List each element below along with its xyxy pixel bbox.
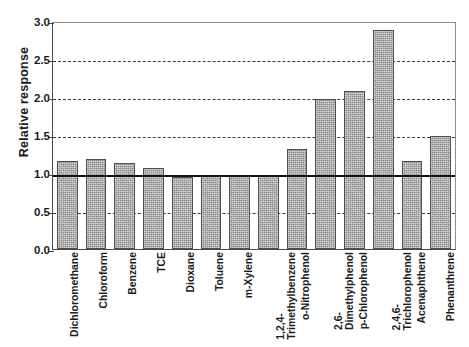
x-tick-label-line: m-Xylene bbox=[244, 252, 255, 298]
x-tick-label: TCE bbox=[157, 252, 168, 273]
x-tick-label: Dioxane bbox=[186, 252, 197, 292]
bar-slot bbox=[426, 23, 455, 249]
bar-slot bbox=[110, 23, 139, 249]
x-tick-label-line: o-Nitrophenol bbox=[301, 252, 312, 320]
bar-slot bbox=[340, 23, 369, 249]
bar-slot bbox=[254, 23, 283, 249]
bar-chart-figure: Relative response 0.00.51.01.52.02.53.0 … bbox=[0, 0, 469, 347]
x-tick-label-line: Phenanthrene bbox=[446, 252, 457, 321]
x-tick-label: 2,6-Dimethylphenol bbox=[334, 252, 355, 330]
bar-slot bbox=[369, 23, 398, 249]
bar[interactable] bbox=[315, 99, 336, 249]
bar[interactable] bbox=[430, 136, 451, 249]
bar[interactable] bbox=[201, 175, 222, 249]
bars-layer bbox=[53, 23, 455, 249]
plot-area bbox=[52, 22, 456, 250]
bar[interactable] bbox=[344, 91, 365, 249]
x-tick-label: o-Nitrophenol bbox=[301, 252, 312, 320]
bar[interactable] bbox=[143, 168, 164, 249]
x-tick-label-line: Dichloromethane bbox=[70, 252, 81, 337]
y-tick-label: 3.0 bbox=[22, 16, 50, 28]
bar-slot bbox=[283, 23, 312, 249]
x-tick-label: Phenanthrene bbox=[446, 252, 457, 321]
bar-slot bbox=[139, 23, 168, 249]
x-tick-label-line: p-Chlorophenol bbox=[359, 252, 370, 329]
bar[interactable] bbox=[172, 177, 193, 249]
x-tick-label: p-Chlorophenol bbox=[359, 252, 370, 329]
x-tick-label-line: Dimethylphenol bbox=[345, 252, 356, 330]
x-tick-label-line: 2,4,6- bbox=[392, 252, 403, 331]
bar-slot bbox=[197, 23, 226, 249]
y-tick-label: 2.0 bbox=[22, 92, 50, 104]
y-tick-label: 0.5 bbox=[22, 206, 50, 218]
bar-slot bbox=[53, 23, 82, 249]
reference-line bbox=[53, 175, 455, 177]
x-tick-label: m-Xylene bbox=[244, 252, 255, 298]
bar[interactable] bbox=[373, 30, 394, 249]
bar[interactable] bbox=[86, 159, 107, 249]
x-tick-label-line: Dioxane bbox=[186, 252, 197, 292]
bar-slot bbox=[311, 23, 340, 249]
bar-slot bbox=[225, 23, 254, 249]
x-tick-label: Benzene bbox=[128, 252, 139, 295]
x-tick-label: Chloroform bbox=[99, 252, 110, 309]
x-axis-tick-labels: DichloromethaneChloroformBenzeneTCEDioxa… bbox=[52, 252, 456, 347]
x-tick-label-line: Acenaphthene bbox=[417, 252, 428, 324]
x-tick-label-line: Toluene bbox=[215, 252, 226, 291]
x-tick-label-line: Trichlorophenol bbox=[402, 252, 413, 331]
x-tick-label: 1,2,4-Trimethylbenzene bbox=[276, 252, 297, 340]
y-tick-label: 2.5 bbox=[22, 54, 50, 66]
x-tick-label-line: Trimethylbenzene bbox=[287, 252, 298, 340]
y-tick-label: 0.0 bbox=[22, 244, 50, 256]
x-tick-label-line: TCE bbox=[157, 252, 168, 273]
x-tick-label: Toluene bbox=[215, 252, 226, 291]
x-tick-label: Acenaphthene bbox=[417, 252, 428, 324]
x-tick-label-line: Benzene bbox=[128, 252, 139, 295]
y-axis-tick-labels: 0.00.51.01.52.02.53.0 bbox=[22, 0, 50, 347]
bar[interactable] bbox=[229, 176, 250, 249]
x-tick-label-line: Chloroform bbox=[99, 252, 110, 309]
bar-slot bbox=[168, 23, 197, 249]
y-tick-label: 1.5 bbox=[22, 130, 50, 142]
x-tick-label: Dichloromethane bbox=[70, 252, 81, 337]
bar-slot bbox=[82, 23, 111, 249]
bar-slot bbox=[398, 23, 427, 249]
y-tick-label: 1.0 bbox=[22, 168, 50, 180]
bar[interactable] bbox=[287, 149, 308, 249]
bar[interactable] bbox=[258, 175, 279, 249]
x-tick-label: 2,4,6-Trichlorophenol bbox=[392, 252, 413, 331]
